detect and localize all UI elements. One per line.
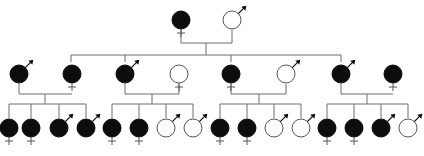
individual-II-5 — [222, 65, 240, 91]
individual-II-4 — [170, 65, 188, 91]
affected-circle-icon — [318, 119, 336, 137]
affected-circle-icon — [63, 65, 81, 83]
individual-III-4 — [77, 114, 100, 137]
individual-III-13 — [318, 119, 336, 145]
affected-circle-icon — [345, 119, 363, 137]
individual-II-6 — [277, 60, 300, 83]
individual-II-7 — [332, 60, 355, 83]
female-symbol-icon — [350, 137, 358, 145]
individual-III-12 — [292, 114, 315, 137]
female-symbol-icon — [227, 83, 235, 91]
individual-I-2 — [223, 6, 246, 29]
connector-line — [341, 84, 393, 94]
female-symbol-icon — [389, 83, 397, 91]
individual-II-2 — [63, 65, 81, 91]
individual-II-1 — [10, 60, 33, 83]
individual-III-10 — [238, 119, 256, 145]
individual-III-15 — [372, 114, 395, 137]
female-symbol-icon — [177, 29, 185, 37]
individual-II-3 — [116, 60, 139, 83]
connector-line — [125, 84, 179, 94]
individual-III-2 — [22, 119, 40, 145]
individual-III-6 — [130, 119, 148, 145]
individuals — [0, 6, 422, 145]
affected-circle-icon — [103, 119, 121, 137]
pedigree-chart — [0, 0, 424, 156]
connector-line — [181, 30, 232, 43]
affected-circle-icon — [211, 119, 229, 137]
individual-III-1 — [0, 119, 18, 145]
individual-II-8 — [384, 65, 402, 91]
individual-III-9 — [211, 119, 229, 145]
individual-I-1 — [172, 11, 190, 37]
individual-III-8 — [184, 114, 207, 137]
affected-circle-icon — [238, 119, 256, 137]
female-symbol-icon — [175, 83, 183, 91]
female-symbol-icon — [135, 137, 143, 145]
female-symbol-icon — [68, 83, 76, 91]
affected-circle-icon — [0, 119, 18, 137]
affected-circle-icon — [222, 65, 240, 83]
individual-III-14 — [345, 119, 363, 145]
individual-III-11 — [265, 114, 288, 137]
female-symbol-icon — [323, 137, 331, 145]
affected-circle-icon — [384, 65, 402, 83]
connector-line — [19, 84, 72, 94]
affected-circle-icon — [22, 119, 40, 137]
individual-III-5 — [103, 119, 121, 145]
affected-circle-icon — [172, 11, 190, 29]
connector-line — [231, 84, 286, 94]
female-symbol-icon — [216, 137, 224, 145]
pedigree-diagram — [0, 0, 424, 156]
female-symbol-icon — [5, 137, 13, 145]
female-symbol-icon — [27, 137, 35, 145]
unaffected-circle-icon — [170, 65, 188, 83]
individual-III-16 — [399, 114, 422, 137]
individual-III-3 — [50, 114, 73, 137]
female-symbol-icon — [243, 137, 251, 145]
individual-III-7 — [157, 114, 180, 137]
affected-circle-icon — [130, 119, 148, 137]
female-symbol-icon — [108, 137, 116, 145]
